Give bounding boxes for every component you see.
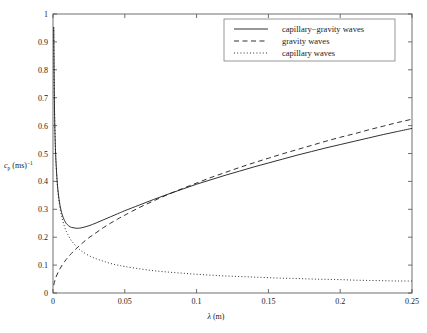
y-axis-title: cp(ms)−1: [4, 160, 33, 171]
x-tick-label: 0.2: [335, 297, 345, 306]
legend-label-capillary-gravity: capillary−gravity waves: [282, 24, 364, 34]
x-tick-label: 0.1: [192, 297, 202, 306]
x-tick-label: 0.25: [405, 297, 419, 306]
y-tick-label: 0.6: [38, 122, 48, 131]
y-tick-label: 0.1: [38, 261, 48, 270]
legend-label-gravity: gravity waves: [282, 36, 329, 46]
y-tick-label: 0.4: [38, 177, 48, 186]
x-axis-title: λ(m): [206, 312, 224, 321]
curve-capillary-waves: [54, 27, 412, 281]
curve-gravity-waves: [54, 119, 412, 285]
legend-label-capillary: capillary waves: [282, 48, 335, 58]
svg-text:λ(m): λ(m): [206, 312, 224, 321]
y-tick-label: 0.7: [38, 94, 48, 103]
legend: capillary−gravity waves gravity waves ca…: [224, 19, 395, 61]
y-tick-label: 0.5: [38, 150, 48, 159]
x-tick-label: 0.05: [118, 297, 132, 306]
y-tick-label: 0.9: [38, 38, 48, 47]
y-tick-label: 0: [44, 289, 48, 298]
y-tick-label: 0.3: [38, 205, 48, 214]
plot-canvas: 00.050.10.150.20.25 00.10.20.30.40.50.60…: [0, 0, 427, 333]
figure-container: 00.050.10.150.20.25 00.10.20.30.40.50.60…: [0, 0, 427, 333]
y-tick-labels: 00.10.20.30.40.50.60.70.80.91: [38, 10, 48, 298]
data-curves: [54, 27, 412, 285]
x-tick-label: 0.15: [261, 297, 275, 306]
svg-text:cp(ms)−1: cp(ms)−1: [4, 160, 33, 171]
y-tick-label: 1: [44, 10, 48, 19]
y-tick-label: 0.2: [38, 233, 48, 242]
y-tick-label: 0.8: [38, 66, 48, 75]
x-tick-labels: 00.050.10.150.20.25: [51, 297, 419, 306]
x-tick-label: 0: [51, 297, 55, 306]
